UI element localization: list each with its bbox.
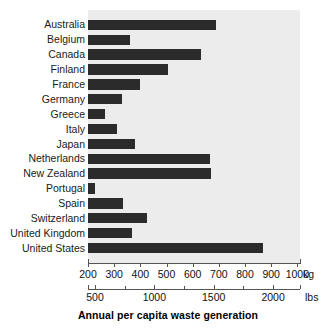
bar-row	[88, 137, 300, 152]
bar-row	[88, 92, 300, 107]
kg-axis-tick	[140, 263, 141, 267]
lbs-axis-tick	[214, 285, 215, 289]
category-label: Italy	[0, 122, 85, 137]
kg-axis-tick	[114, 263, 115, 267]
bar	[88, 168, 211, 178]
bar-row	[88, 32, 300, 47]
bar-row	[88, 107, 300, 122]
bar-row	[88, 77, 300, 92]
bar	[88, 139, 135, 149]
bar	[88, 35, 130, 45]
category-axis-labels: AustraliaBelgiumCanadaFinlandFranceGerma…	[0, 10, 85, 263]
waste-generation-bar-chart: AustraliaBelgiumCanadaFinlandFranceGerma…	[0, 0, 336, 335]
bar-row	[88, 211, 300, 226]
lbs-axis-tick-labels: 500100015002000	[0, 291, 336, 305]
bar-row	[88, 47, 300, 62]
bar	[88, 183, 95, 193]
lbs-axis-minor-tick	[184, 286, 185, 289]
bar-row	[88, 62, 300, 77]
lbs-unit-label: lbs	[305, 291, 318, 304]
bar	[88, 20, 216, 30]
bar	[88, 243, 263, 253]
category-label: France	[0, 77, 85, 92]
lbs-axis-tick	[273, 285, 274, 289]
bar	[88, 198, 123, 208]
kg-axis-endcap	[88, 259, 89, 264]
lbs-axis-tick-label: 1000	[132, 291, 176, 304]
category-label: Greece	[0, 107, 85, 122]
lbs-axis-tick-label: 1500	[192, 291, 236, 304]
lbs-axis-minor-tick	[243, 286, 244, 289]
kg-axis-line	[88, 263, 300, 264]
chart-axis-title: Annual per capita waste generation	[0, 309, 336, 321]
bar	[88, 94, 122, 104]
category-label: Finland	[0, 62, 85, 77]
bar-row	[88, 241, 300, 256]
lbs-axis-tick-label: 500	[73, 291, 117, 304]
category-label: Belgium	[0, 32, 85, 47]
kg-axis-tick-labels: 2003004005006007008009001000	[0, 268, 336, 282]
lbs-axis-minor-tick	[125, 286, 126, 289]
lbs-axis-endcap	[88, 285, 89, 289]
kg-axis-endcap	[300, 259, 301, 264]
bar-row	[88, 196, 300, 211]
bar	[88, 154, 210, 164]
kg-axis-tick	[297, 263, 298, 267]
kg-axis-tick	[271, 263, 272, 267]
lbs-axis-endcap	[300, 285, 301, 289]
lbs-axis-tick	[154, 285, 155, 289]
bar	[88, 213, 147, 223]
bar-row	[88, 226, 300, 241]
category-label: Australia	[0, 17, 85, 32]
category-label: Switzerland	[0, 211, 85, 226]
kg-axis-tick	[193, 263, 194, 267]
category-label: Japan	[0, 137, 85, 152]
bar-row	[88, 151, 300, 166]
category-label: Portugal	[0, 181, 85, 196]
bar	[88, 109, 105, 119]
bar	[88, 49, 201, 59]
category-label: Netherlands	[0, 151, 85, 166]
bar-row	[88, 181, 300, 196]
category-label: Canada	[0, 47, 85, 62]
bar	[88, 64, 168, 74]
bar-row	[88, 166, 300, 181]
category-label: Spain	[0, 196, 85, 211]
bar-row	[88, 122, 300, 137]
category-label: New Zealand	[0, 166, 85, 181]
kg-unit-label: kg	[303, 268, 314, 281]
kg-axis-tick	[245, 263, 246, 267]
bar	[88, 124, 117, 134]
bar	[88, 228, 132, 238]
kg-axis-tick	[167, 263, 168, 267]
bar-row	[88, 17, 300, 32]
category-label: Germany	[0, 92, 85, 107]
kg-axis-tick	[219, 263, 220, 267]
lbs-axis-line	[88, 289, 300, 290]
lbs-axis-tick-label: 2000	[251, 291, 295, 304]
category-label: United States	[0, 241, 85, 256]
bar	[88, 79, 140, 89]
category-label: United Kingdom	[0, 226, 85, 241]
plot-area	[88, 10, 300, 263]
lbs-axis-tick	[95, 285, 96, 289]
